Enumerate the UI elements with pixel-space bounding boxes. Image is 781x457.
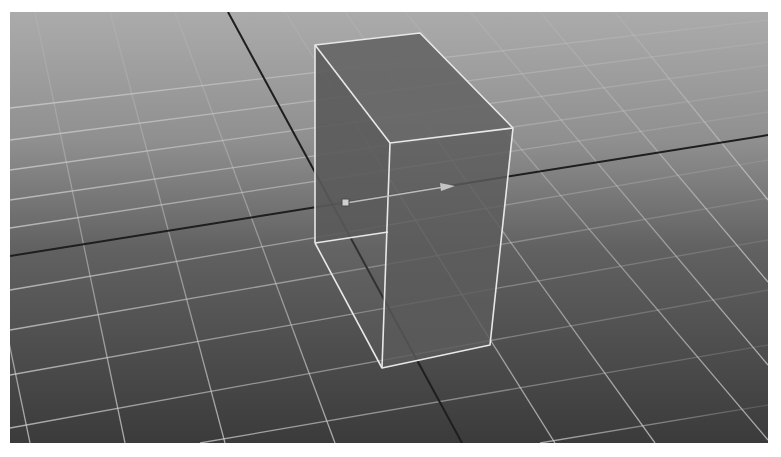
manipulator-pivot-icon[interactable]	[342, 199, 349, 206]
3d-viewport[interactable]: 3D Perspective Viewport	[10, 12, 768, 443]
